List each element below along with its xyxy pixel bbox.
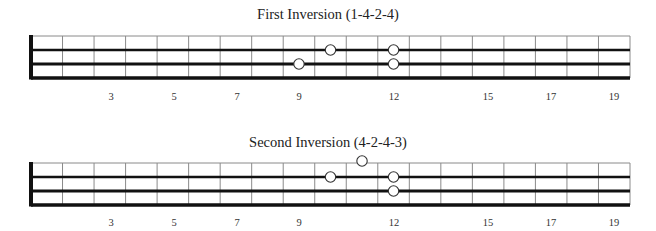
- note-marker: [388, 186, 398, 196]
- fret-number: 19: [609, 217, 620, 228]
- diagram-1-title: First Inversion (1-4-2-4): [0, 6, 656, 23]
- fret-number: 9: [296, 91, 301, 102]
- fretboard-1: [0, 0, 656, 231]
- note-marker: [325, 172, 335, 182]
- fret-number: 15: [483, 217, 494, 228]
- fret-number: 7: [234, 217, 239, 228]
- fret-number: 5: [171, 91, 176, 102]
- diagram-2-title: Second Inversion (4-2-4-3): [0, 134, 656, 151]
- fret-number: 12: [389, 217, 400, 228]
- note-marker: [388, 45, 398, 55]
- note-marker: [388, 59, 398, 69]
- fret-number: 5: [171, 217, 176, 228]
- fret-number: 17: [546, 91, 557, 102]
- fret-number: 15: [483, 91, 494, 102]
- fret-number: 3: [108, 91, 113, 102]
- fret-number: 7: [234, 91, 239, 102]
- note-marker: [325, 45, 335, 55]
- fret-number: 19: [609, 91, 620, 102]
- fret-number: 3: [108, 217, 113, 228]
- note-marker: [388, 172, 398, 182]
- fret-number: 12: [389, 91, 400, 102]
- fret-number: 9: [296, 217, 301, 228]
- note-marker: [294, 59, 304, 69]
- fret-number: 17: [546, 217, 557, 228]
- fretboard-1-grid: [31, 35, 630, 207]
- note-marker: [357, 156, 367, 166]
